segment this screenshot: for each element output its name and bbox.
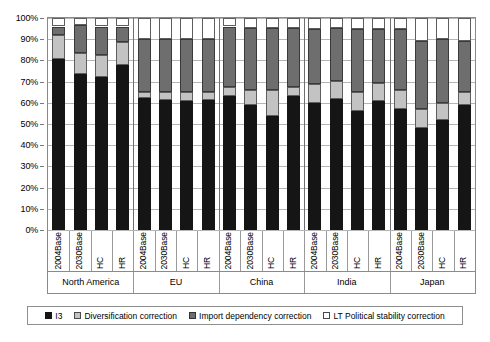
bar-segment[interactable] <box>52 59 65 230</box>
bar-segment[interactable] <box>287 18 300 28</box>
bar-segment[interactable] <box>266 18 279 28</box>
bar-segment[interactable] <box>266 116 279 230</box>
bar-segment[interactable] <box>74 74 87 230</box>
bar-segment[interactable] <box>159 39 172 92</box>
bar-segment[interactable] <box>436 18 449 39</box>
bar-segment[interactable] <box>95 77 108 230</box>
bar-segment[interactable] <box>458 92 471 105</box>
category-tick <box>326 231 327 271</box>
category-tick <box>411 231 412 271</box>
bar-segment[interactable] <box>95 55 108 77</box>
bar-segment[interactable] <box>159 92 172 99</box>
bar-segment[interactable] <box>394 109 407 230</box>
bar-segment[interactable] <box>372 18 385 29</box>
bar-segment[interactable] <box>52 27 65 35</box>
bar-segment[interactable] <box>308 29 321 84</box>
bar-segment[interactable] <box>330 81 343 99</box>
bar-segment[interactable] <box>415 41 428 109</box>
bar-segment[interactable] <box>138 18 151 39</box>
bar-segment[interactable] <box>351 29 364 93</box>
y-axis-tick <box>40 124 44 125</box>
bar-segment[interactable] <box>74 18 87 25</box>
bar-segment[interactable] <box>415 109 428 128</box>
bar-segment[interactable] <box>394 18 407 29</box>
bar-segment[interactable] <box>138 39 151 92</box>
bar-segment[interactable] <box>394 90 407 109</box>
bar-segment[interactable] <box>180 92 193 100</box>
y-axis-label: 10% <box>21 204 38 213</box>
bar-group <box>48 18 133 230</box>
bar-segment[interactable] <box>159 18 172 39</box>
bar-segment[interactable] <box>458 41 471 92</box>
category-tick <box>240 231 241 271</box>
bar-segment[interactable] <box>287 28 300 87</box>
bar-segment[interactable] <box>223 18 236 26</box>
y-axis-label: 90% <box>21 35 38 44</box>
bar-segment[interactable] <box>116 65 129 230</box>
bar-segment[interactable] <box>394 29 407 90</box>
bar-segment[interactable] <box>436 103 449 120</box>
bar-segment[interactable] <box>138 98 151 231</box>
bar-segment[interactable] <box>458 105 471 230</box>
bar-segment[interactable] <box>244 105 257 230</box>
bar-segment[interactable] <box>436 120 449 230</box>
bar-segment[interactable] <box>116 27 129 43</box>
bar-segment[interactable] <box>74 53 87 74</box>
category-label-hc: HC <box>438 257 447 269</box>
bar-segment[interactable] <box>180 18 193 39</box>
bar-segment[interactable] <box>159 100 172 230</box>
x-axis-groups: North AmericaEUChinaIndiaJapan <box>47 272 476 294</box>
bar-segment[interactable] <box>287 96 300 230</box>
bar-segment[interactable] <box>95 27 108 56</box>
bar-segment[interactable] <box>415 128 428 230</box>
bar-segment[interactable] <box>95 18 108 26</box>
bar-segment[interactable] <box>202 39 215 92</box>
bar-segment[interactable] <box>74 25 87 53</box>
bar-segment[interactable] <box>223 87 236 97</box>
bar-segment[interactable] <box>244 28 257 91</box>
bar-segment[interactable] <box>202 92 215 99</box>
legend-label: LT Political stability correction <box>333 311 444 321</box>
category-tick <box>69 231 70 271</box>
bar-segment[interactable] <box>372 101 385 230</box>
bar-segment[interactable] <box>308 103 321 230</box>
y-axis-tick <box>40 145 44 146</box>
bar-segment[interactable] <box>415 18 428 41</box>
bar-segment[interactable] <box>116 18 129 26</box>
bar-segment[interactable] <box>372 83 385 101</box>
bar-segment[interactable] <box>351 111 364 230</box>
bar-segment[interactable] <box>266 90 279 115</box>
legend-item[interactable]: Import dependency correction <box>189 311 311 321</box>
bar-segment[interactable] <box>244 18 257 28</box>
bar-segment[interactable] <box>266 28 279 91</box>
bar-segment[interactable] <box>458 18 471 41</box>
legend-item[interactable]: LT Political stability correction <box>323 311 444 321</box>
bar-segment[interactable] <box>372 29 385 83</box>
bar-segment[interactable] <box>244 90 257 105</box>
bar-segment[interactable] <box>223 27 236 87</box>
bar-segment[interactable] <box>52 35 65 59</box>
group-separator <box>133 18 134 230</box>
bar-segment[interactable] <box>351 18 364 29</box>
bar-segment[interactable] <box>330 99 343 230</box>
bar-segment[interactable] <box>52 18 65 26</box>
bar-segment[interactable] <box>351 92 364 111</box>
bar-segment[interactable] <box>287 87 300 97</box>
bar-segment[interactable] <box>180 101 193 230</box>
bar-segment[interactable] <box>180 39 193 92</box>
bar-segment[interactable] <box>330 28 343 81</box>
bar-segment[interactable] <box>308 18 321 29</box>
legend-item[interactable]: I3 <box>45 311 62 321</box>
bar-segment[interactable] <box>330 18 343 28</box>
bar-segment[interactable] <box>116 42 129 64</box>
bar-segment[interactable] <box>308 84 321 103</box>
category-label-hr: HR <box>203 257 212 269</box>
bar-segment[interactable] <box>202 100 215 230</box>
bar-segment[interactable] <box>138 92 151 97</box>
bar-segment[interactable] <box>223 96 236 230</box>
legend-item[interactable]: Diversification correction <box>74 311 177 321</box>
bar-segment[interactable] <box>436 39 449 103</box>
bar-segment[interactable] <box>202 18 215 39</box>
y-axis-label: 100% <box>16 14 38 23</box>
category-tick <box>368 231 369 271</box>
